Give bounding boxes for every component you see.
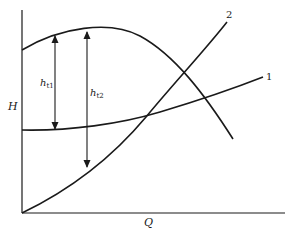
x-axis-label: Q	[144, 216, 153, 229]
curve-1-label: 1	[266, 71, 272, 82]
curve-2-label: 2	[226, 9, 232, 20]
ht1-label: ht1	[40, 77, 54, 90]
ht2-label: ht2	[90, 87, 104, 100]
pump-system-curve-diagram: H Q ht1 ht2 2 1	[0, 0, 294, 234]
y-axis-label: H	[7, 100, 18, 113]
system-curve-2	[22, 22, 227, 213]
